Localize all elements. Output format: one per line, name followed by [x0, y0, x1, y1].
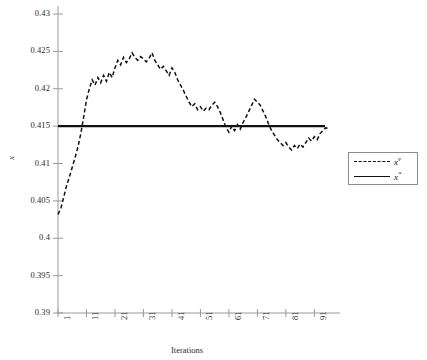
x-tick-label: 71	[261, 311, 271, 320]
legend-entry-xv: xv	[349, 154, 419, 170]
legend-swatch-dashed-icon	[354, 161, 390, 162]
y-tick-label: 0.39	[6, 307, 50, 317]
x-tick-label: 11	[90, 312, 100, 320]
y-tick-label: 0.42	[6, 83, 50, 93]
y-tick-label: 0.415	[6, 120, 50, 130]
y-tick-label: 0.405	[6, 195, 50, 205]
chart-legend: xv x*	[348, 152, 418, 185]
x-axis-label: Iterations	[171, 345, 203, 355]
x-tick-label: 31	[147, 311, 157, 320]
y-tick-label: 0.41	[6, 158, 50, 168]
x-tick-label: 51	[204, 311, 214, 320]
legend-entry-xstar: x*	[349, 169, 419, 185]
x-tick-label: 61	[233, 311, 243, 320]
x-tick-label: 41	[176, 311, 186, 320]
legend-label-xv: xv	[394, 155, 401, 167]
legend-swatch-solid-icon	[354, 176, 390, 177]
y-tick-label: 0.395	[6, 270, 50, 280]
x-tick-label: 81	[290, 311, 300, 320]
x-tick-label: 1	[62, 316, 72, 320]
chart-figure: x Iterations 0.390.3950.40.4050.410.4150…	[0, 0, 427, 360]
x-tick-label: 21	[119, 311, 129, 320]
y-tick-label: 0.4	[6, 232, 50, 242]
series-line-xv	[58, 53, 329, 214]
x-tick-label: 91	[318, 311, 328, 320]
y-tick-label: 0.425	[6, 45, 50, 55]
y-tick-label: 0.43	[6, 8, 50, 18]
legend-label-xstar: x*	[394, 170, 401, 182]
